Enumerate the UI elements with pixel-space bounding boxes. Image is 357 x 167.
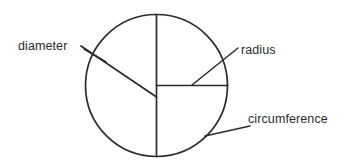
circle-diagram: diameter radius circumference bbox=[0, 0, 357, 167]
label-radius: radius bbox=[241, 43, 276, 57]
label-diameter: diameter bbox=[18, 39, 67, 53]
label-circumference: circumference bbox=[248, 112, 328, 126]
diagram-canvas: diameter radius circumference bbox=[0, 0, 357, 167]
radius-leader-line bbox=[192, 48, 238, 85]
